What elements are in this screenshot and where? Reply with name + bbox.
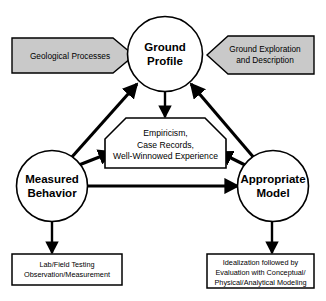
diagram-canvas: Geological Processes Ground Exploration … [0, 0, 326, 301]
box-idealization-line1: Idealization followed by [223, 258, 299, 267]
node-measured-behavior-line1: Measured [25, 173, 79, 185]
node-appropriate-model-line1: Appropriate [240, 173, 305, 185]
banner-ground-exploration-line2: and Description [236, 55, 294, 65]
box-lab-field-testing-line1: Lab/Field Testing [39, 260, 94, 269]
node-ground-profile-line2: Profile [147, 55, 183, 67]
box-lab-field-testing-line2: Observation/Measurement [24, 270, 110, 279]
banner-ground-exploration-line1: Ground Exploration [229, 44, 301, 54]
diagram-svg: Geological Processes Ground Exploration … [0, 0, 326, 301]
banner-geological-processes-label: Geological Processes [30, 51, 110, 61]
center-box-line1: Empiricism, [143, 128, 187, 138]
center-box-line3: Well-Winnowed Experience [113, 151, 218, 161]
node-measured-behavior-line2: Behavior [27, 187, 77, 199]
box-idealization-line3: Physical/Analytical Modeling [214, 278, 306, 287]
box-idealization-line2: Evaluation with Conceptual/ [215, 268, 306, 277]
center-box-line2: Case Records, [137, 140, 194, 150]
node-ground-profile-line1: Ground [144, 41, 186, 53]
node-appropriate-model-line2: Model [256, 187, 289, 199]
